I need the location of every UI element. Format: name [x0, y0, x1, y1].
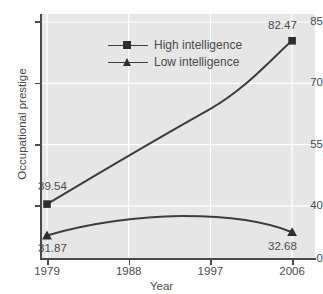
x-tick-label-1979: 1979	[24, 266, 70, 278]
legend-label-high-intelligence: High intelligence	[148, 39, 242, 52]
legend-square-marker-icon	[108, 39, 148, 53]
y-tick-55	[35, 144, 40, 146]
data-label-low-1979: 31.87	[38, 242, 67, 254]
y-tick-70	[35, 83, 40, 85]
legend-item-high-intelligence: High intelligence	[108, 37, 242, 54]
y-tick-85	[35, 21, 40, 23]
legend-label-low-intelligence: Low intelligence	[148, 56, 239, 69]
legend-triangle-marker-icon	[108, 56, 148, 70]
x-tick-label-1988: 1988	[106, 266, 152, 278]
x-tick-label-1997: 1997	[187, 266, 233, 278]
y-tick-label-0: 0	[289, 253, 323, 265]
x-tick-label-2006: 2006	[269, 266, 315, 278]
data-label-low-2006: 32.68	[268, 240, 297, 252]
y-tick-label-70: 70	[289, 77, 323, 89]
y-axis-line	[40, 14, 42, 259]
y-tick-label-40: 40	[289, 200, 323, 212]
data-label-high-1979: 39.54	[38, 180, 67, 192]
occupational-prestige-line-chart: High intelligence Low intelligence 39.54…	[0, 0, 323, 294]
low-intelligence-line	[47, 216, 292, 236]
high-intelligence-marker-2006	[288, 37, 296, 45]
high-intelligence-marker-1979	[43, 200, 51, 208]
y-axis-title: Occupational prestige	[16, 44, 28, 204]
y-tick-label-55: 55	[289, 139, 323, 151]
plot-area: High intelligence Low intelligence 39.54…	[41, 14, 315, 259]
y-tick-40	[35, 205, 40, 207]
y-tick-label-85: 85	[289, 16, 323, 28]
x-axis-title: Year	[0, 280, 323, 292]
legend: High intelligence Low intelligence	[104, 35, 246, 73]
legend-item-low-intelligence: Low intelligence	[108, 54, 242, 71]
x-axis-line	[40, 258, 316, 260]
